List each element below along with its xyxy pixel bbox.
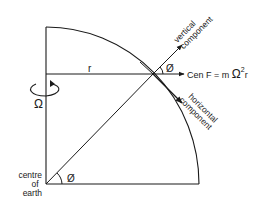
angle-arc-surface	[160, 67, 163, 74]
tangent-line	[140, 62, 153, 74]
centrifugal-force-formula: Cen F = m Ω2r	[187, 66, 248, 81]
omega-label: Ω	[34, 97, 43, 111]
centre-label-3: earth	[23, 188, 43, 198]
earth-rotation-diagram: r Ω centre of earth Ø Ø vertical compone…	[0, 0, 258, 210]
rotation-arrowhead-icon	[50, 80, 55, 87]
rotation-arrow-icon	[31, 84, 59, 96]
latitude-line	[46, 74, 153, 184]
formula-omega: Ω	[232, 67, 241, 81]
angle-arc-center	[57, 173, 62, 184]
angle-label-center: Ø	[67, 173, 75, 184]
formula-prefix: Cen F = m	[187, 70, 232, 80]
formula-suffix: r	[245, 70, 248, 80]
centre-label-1: centre	[18, 170, 42, 180]
horizontal-component-arrow	[153, 74, 182, 103]
angle-label-surface: Ø	[166, 63, 174, 74]
radius-label: r	[88, 63, 92, 74]
